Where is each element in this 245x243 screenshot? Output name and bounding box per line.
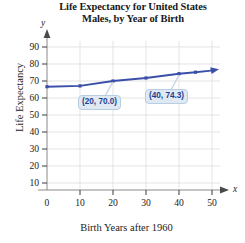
y-axis-arrow <box>44 29 51 38</box>
x-axis-ticks <box>80 190 212 195</box>
x-tick-10: 10 <box>70 197 90 208</box>
x-tick-20: 20 <box>103 197 123 208</box>
x-axis-label: Birth Years after 1960 <box>24 222 229 233</box>
x-tick-40: 40 <box>169 197 189 208</box>
y-tick-80: 80 <box>17 58 39 69</box>
x-tick-50: 50 <box>202 197 222 208</box>
y-tick-70: 70 <box>17 75 39 86</box>
y-axis-name: y <box>41 18 45 28</box>
annotation-callout-first: (20, 70.0) <box>78 95 121 110</box>
grid-vertical <box>80 41 212 190</box>
data-line <box>47 71 211 87</box>
x-tick-0: 0 <box>37 197 57 208</box>
y-tick-10: 10 <box>17 177 39 188</box>
data-line-arrow <box>210 67 219 74</box>
x-tick-30: 30 <box>136 197 156 208</box>
y-tick-50: 50 <box>17 109 39 120</box>
annotation-callout-second: (40, 74.3) <box>145 89 188 104</box>
y-tick-60: 60 <box>17 92 39 103</box>
x-axis-name: x <box>233 184 237 194</box>
grid-horizontal <box>47 47 220 183</box>
y-tick-90: 90 <box>17 41 39 52</box>
x-axis-arrow <box>220 187 229 194</box>
y-tick-30: 30 <box>17 143 39 154</box>
y-tick-20: 20 <box>17 160 39 171</box>
y-axis-ticks <box>42 47 47 183</box>
chart-figure: Life Expectancy for United States Males,… <box>0 0 245 243</box>
y-tick-40: 40 <box>17 126 39 137</box>
